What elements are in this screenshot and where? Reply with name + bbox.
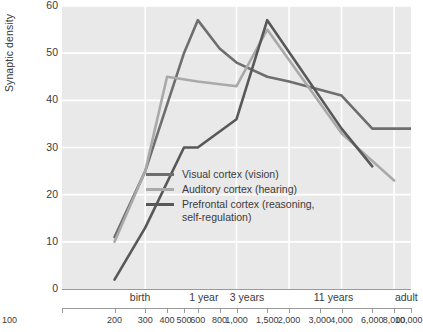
y-axis-tick-label: 0 [28, 282, 58, 294]
plot-lines [62, 6, 411, 289]
x-axis-tick [320, 308, 321, 313]
age-annotation-label: 11 years [314, 291, 354, 303]
legend-color-swatch [146, 173, 174, 176]
x-axis-tick-label: 500 [176, 315, 191, 325]
x-axis-tick [145, 308, 146, 313]
y-axis-tick-label: 40 [28, 93, 58, 105]
age-annotation-label: birth [130, 291, 150, 303]
x-axis-tick [62, 308, 63, 313]
x-axis-tick-labels: 1002003004005006008001,0001,5002,0003,00… [0, 315, 417, 329]
legend-item: Visual cortex (vision) [146, 168, 314, 181]
x-axis-tick-label: 400 [160, 315, 175, 325]
legend-item: Prefrontal cortex (reasoning, self-regul… [146, 198, 314, 224]
x-axis-tick-label: 10,000 [395, 315, 423, 325]
x-axis-tick-label: 6,000 [361, 315, 384, 325]
x-axis-tick-scale [62, 308, 411, 314]
chart-legend: Visual cortex (vision)Auditory cortex (h… [146, 168, 314, 226]
age-annotation-label: 1 year [189, 291, 218, 303]
y-axis-tick-label: 60 [28, 0, 58, 11]
x-axis-tick-label: 1,500 [256, 315, 279, 325]
x-axis-tick-label: 100 [2, 315, 17, 325]
legend-color-swatch [146, 188, 174, 191]
y-axis-tick-label: 10 [28, 235, 58, 247]
legend-item-label: Auditory cortex (hearing) [182, 183, 297, 196]
x-axis-tick [342, 308, 343, 313]
legend-item-label: Visual cortex (vision) [182, 168, 279, 181]
y-axis-tick-label: 20 [28, 188, 58, 200]
x-axis-tick-label: 2,000 [278, 315, 301, 325]
legend-item-label: Prefrontal cortex (reasoning, self-regul… [182, 198, 314, 224]
x-axis-tick-label: 4,000 [330, 315, 353, 325]
x-axis-tick-label: 600 [190, 315, 205, 325]
y-axis-label: Synaptic density [3, 0, 15, 108]
x-axis-tick-label: 3,000 [308, 315, 331, 325]
legend-color-swatch [146, 203, 174, 206]
x-axis-line [62, 289, 411, 290]
x-axis-tick-label: 1,000 [225, 315, 248, 325]
y-axis-tick-label: 50 [28, 46, 58, 58]
x-axis-tick [267, 308, 268, 313]
age-annotation-label: adult [395, 291, 418, 303]
x-axis-tick [167, 308, 168, 313]
x-axis-tick [184, 308, 185, 313]
y-axis-tick-label: 30 [28, 141, 58, 153]
x-axis-tick [372, 308, 373, 313]
x-axis-tick [220, 308, 221, 313]
x-axis-tick [198, 308, 199, 313]
x-axis-tick [289, 308, 290, 313]
x-axis-tick-label: 300 [138, 315, 153, 325]
x-axis-tick [115, 308, 116, 313]
age-annotations: birth1 year3 years11 yearsadult [62, 291, 411, 307]
legend-item: Auditory cortex (hearing) [146, 183, 314, 196]
x-axis-tick-label: 200 [107, 315, 122, 325]
x-axis-tick [394, 308, 395, 313]
age-annotation-label: 3 years [230, 291, 264, 303]
y-axis-ticks: 6050403020100 [26, 0, 58, 295]
x-axis-tick [237, 308, 238, 313]
x-axis-tick [411, 308, 412, 313]
